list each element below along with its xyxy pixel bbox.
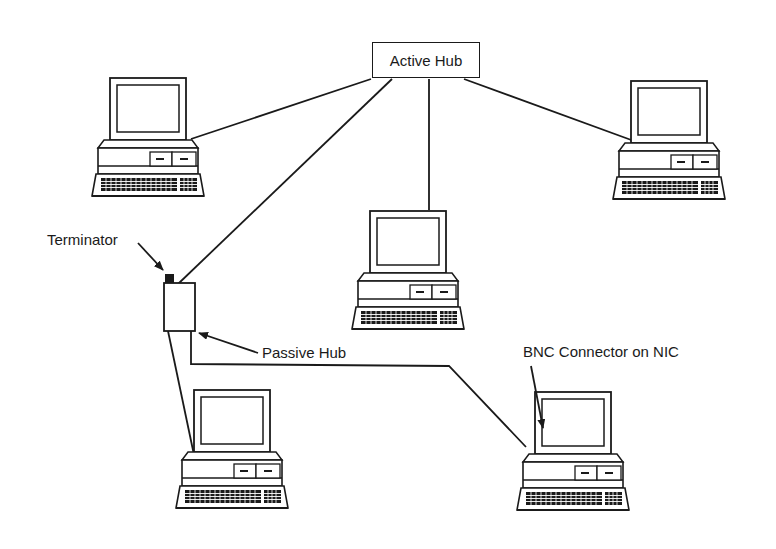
bnc-connector-label: BNC Connector on NIC xyxy=(523,344,679,359)
passive-hub-label: Passive Hub xyxy=(262,345,346,360)
terminator-block[interactable] xyxy=(165,274,174,283)
link-hub-pc-top-right xyxy=(464,79,634,141)
passive-hub-box[interactable] xyxy=(164,283,195,331)
network-diagram xyxy=(0,0,776,549)
active-hub[interactable]: Active Hub xyxy=(372,42,480,78)
pc-center[interactable] xyxy=(352,211,464,329)
link-hub-passive-hub xyxy=(178,79,392,284)
terminator-arrow xyxy=(138,243,163,270)
passive-hub-arrow xyxy=(199,333,258,353)
pc-top-left[interactable] xyxy=(92,78,204,196)
active-hub-label: Active Hub xyxy=(390,52,463,69)
terminator-label: Terminator xyxy=(47,232,118,247)
pc-bottom-right[interactable] xyxy=(517,392,629,510)
link-hub-pc-top-left xyxy=(191,79,371,139)
